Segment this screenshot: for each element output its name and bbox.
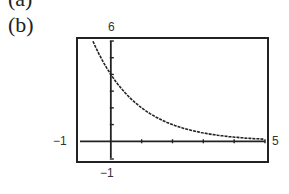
ymin-label: −1	[100, 166, 114, 180]
exponential-curve	[93, 41, 264, 139]
graph-frame	[77, 38, 268, 162]
xmax-label: 5	[272, 134, 279, 148]
axes	[80, 41, 265, 159]
xmin-label: −1	[53, 134, 67, 148]
ymax-label: 6	[108, 20, 115, 34]
calculator-graph	[0, 0, 289, 194]
